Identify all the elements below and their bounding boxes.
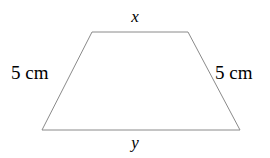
geometry-figure: x 5 cm 5 cm y bbox=[0, 0, 270, 158]
bottom-side-label: y bbox=[0, 134, 270, 151]
right-side-length-label: 5 cm bbox=[215, 63, 252, 82]
left-side-length-label: 5 cm bbox=[11, 63, 48, 82]
top-side-label: x bbox=[0, 8, 270, 25]
trapezoid-outline bbox=[42, 32, 240, 130]
